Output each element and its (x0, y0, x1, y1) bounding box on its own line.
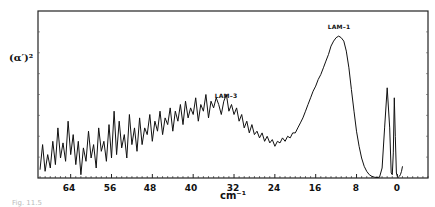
y-axis-label: (α′)² (9, 52, 33, 63)
x-tick-label: 40 (185, 183, 198, 193)
x-tick-label: 8 (353, 183, 359, 193)
spectrum-chart (0, 0, 435, 207)
x-tick-label: 48 (144, 183, 157, 193)
x-tick-label: 32 (227, 183, 240, 193)
x-tick-label: 16 (309, 183, 322, 193)
x-tick-label: 56 (104, 183, 117, 193)
x-tick-label: 0 (394, 183, 400, 193)
annotation-lam3: LAM–3 (215, 92, 238, 99)
annotation-lam1: LAM–1 (328, 23, 351, 30)
x-tick-label: 24 (268, 183, 281, 193)
spectrum-trace (40, 36, 403, 177)
figure-caption: Fig. 11.5 (12, 199, 42, 207)
x-tick-label: 64 (63, 183, 76, 193)
